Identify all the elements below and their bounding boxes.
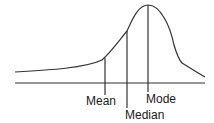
skewed-distribution-diagram: Mean Median Mode	[0, 0, 214, 123]
mean-label: Mean	[86, 94, 116, 108]
median-label: Median	[125, 108, 164, 122]
distribution-curve	[15, 5, 205, 77]
mode-label: Mode	[146, 92, 176, 106]
